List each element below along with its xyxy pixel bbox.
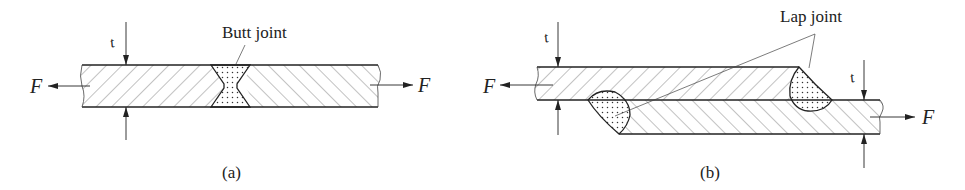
callout-butt-joint: Butt joint — [222, 23, 287, 42]
force-label-left: F — [482, 75, 496, 97]
caption-b: (b) — [700, 163, 720, 182]
force-label-right: F — [417, 74, 431, 96]
left-plate — [81, 65, 238, 107]
thickness-label-right: t — [848, 69, 857, 86]
right-plate — [244, 65, 381, 107]
welded-joints-diagram: F F t Butt joint (a) F F — [0, 0, 965, 190]
panel-a-butt-joint: F F t Butt joint (a) — [29, 22, 431, 182]
thickness-label-left: t — [542, 29, 551, 46]
force-label-right: F — [921, 106, 935, 128]
callout-leader-right — [809, 34, 815, 68]
callout-lap-joint: Lap joint — [780, 7, 842, 26]
force-label-left: F — [29, 75, 43, 97]
callout-leader — [236, 45, 245, 64]
panel-b-lap-joint: F F t t Lap joint (b) — [482, 7, 935, 182]
caption-a: (a) — [222, 163, 241, 182]
lower-plate — [619, 100, 883, 134]
thickness-label: t — [108, 34, 117, 51]
